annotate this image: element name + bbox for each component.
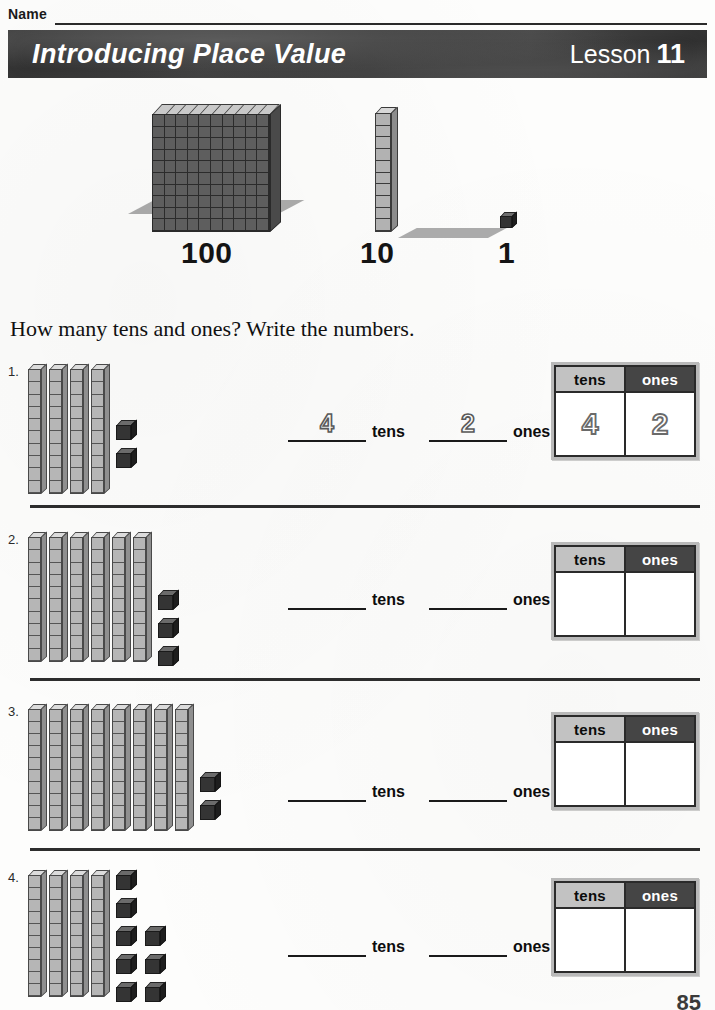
lesson-title-bar: Introducing Place Value Lesson11: [8, 30, 707, 78]
ones-cube-icon: [158, 590, 173, 605]
tens-rod-front-face: [70, 875, 83, 997]
tens-rod-icon: [49, 704, 62, 832]
tens-rod-side-face: [83, 870, 89, 997]
tens-rod-icon: [49, 532, 62, 663]
ones-cube-icon: [145, 954, 160, 969]
ones-cube-front-face: [116, 987, 131, 1002]
tens-rod-side-face: [41, 870, 47, 997]
ones-cube-side-face: [131, 420, 137, 440]
ones-answer-blank[interactable]: [429, 770, 507, 802]
ones-cube-column: [116, 870, 131, 1010]
ones-answer-value: 2: [429, 409, 507, 438]
place-value-table-header: tensones: [556, 547, 694, 573]
ones-cube-front-face: [116, 425, 131, 440]
hundreds-flat-side-face: [270, 104, 281, 232]
ones-cube-icon: [116, 982, 131, 997]
tens-rod-icon: [49, 870, 62, 998]
tens-rod-front-face: [112, 537, 125, 662]
tens-rod-side-face: [125, 532, 131, 662]
tens-rod-front-face: [91, 709, 104, 831]
ones-answer-word: ones: [513, 423, 550, 442]
ones-answer-blank[interactable]: [429, 925, 507, 957]
tens-rod-side-face: [104, 532, 110, 662]
place-value-table: tensones: [551, 878, 699, 976]
ones-cube-icon: [116, 898, 131, 913]
lesson-word: Lesson: [570, 40, 651, 68]
ones-answer-blank[interactable]: 2: [429, 410, 507, 442]
ones-cube-side-face: [131, 870, 137, 890]
tens-column-header: tens: [556, 717, 626, 741]
ones-cube-front-face: [145, 959, 160, 974]
tens-rod-side-face: [41, 532, 47, 662]
tens-rod-front-face: [49, 369, 62, 494]
ones-cube-front-face: [200, 777, 215, 792]
tens-answer-cell[interactable]: 4: [556, 393, 626, 455]
tens-rod-front-face: [28, 369, 41, 494]
tens-rod-icon: [91, 364, 104, 495]
tens-rod-front-face: [49, 537, 62, 662]
tens-answer-blank[interactable]: [288, 578, 366, 610]
ones-cube-icon: [145, 926, 160, 941]
tens-rod-side-face: [41, 364, 47, 494]
ones-cube-front-face: [116, 931, 131, 946]
ones-answer-cell[interactable]: [626, 743, 694, 805]
ones-cube-side-face: [512, 211, 517, 228]
tens-rod-icon: [154, 704, 167, 832]
name-write-line[interactable]: [55, 23, 707, 25]
tens-rod-side-face: [188, 704, 194, 831]
tens-answer-cell[interactable]: [556, 573, 626, 635]
tens-rod-group: [28, 870, 112, 998]
tens-rod-shadow: [398, 228, 507, 238]
tens-rod-icon: [70, 532, 83, 663]
ones-answer-cell[interactable]: [626, 573, 694, 635]
tens-rod-side-face: [83, 364, 89, 494]
ones-answer-cell[interactable]: [626, 909, 694, 971]
tens-answer-word: tens: [372, 938, 405, 957]
ones-answer-cell[interactable]: 2: [626, 393, 694, 455]
tens-answer-cell[interactable]: [556, 743, 626, 805]
ones-label: 1: [498, 236, 515, 270]
tens-answer-cell[interactable]: [556, 909, 626, 971]
tens-rod-icon: [375, 107, 391, 232]
ones-cube-side-face: [215, 800, 221, 820]
tens-rod-icon: [28, 532, 41, 663]
tens-answer-blank[interactable]: [288, 770, 366, 802]
tens-rod-group: [28, 364, 112, 495]
ones-cube-icon: [500, 212, 512, 224]
ones-cube-side-face: [160, 954, 166, 974]
ones-cube-side-face: [215, 772, 221, 792]
ones-cube-icon: [158, 618, 173, 633]
tens-rod-side-face: [104, 870, 110, 997]
tens-answer-blank[interactable]: 4: [288, 410, 366, 442]
ones-column-header: ones: [626, 883, 694, 907]
tens-answer-word: tens: [372, 783, 405, 802]
tens-rod-icon: [70, 704, 83, 832]
ones-column-header: ones: [626, 717, 694, 741]
tens-rod-icon: [28, 704, 41, 832]
tens-rod-front-face: [112, 709, 125, 831]
ones-cube-column: [158, 590, 173, 674]
ones-cube-side-face: [173, 646, 179, 666]
answer-line-group: tensones: [288, 578, 552, 610]
tens-rod-icon: [91, 870, 104, 998]
lesson-number: 11: [656, 39, 685, 69]
tens-answer-word: tens: [372, 591, 405, 610]
ones-cube-icon: [116, 448, 131, 463]
tens-rod-side-face: [62, 532, 68, 662]
problem-number: 3.: [8, 704, 19, 719]
tens-answer-value: 4: [288, 409, 366, 438]
tens-rod-icon: [91, 532, 104, 663]
page-number: 85: [677, 990, 701, 1010]
place-value-table-header: tensones: [556, 883, 694, 909]
tens-rod-icon: [133, 704, 146, 832]
tens-rod-front-face: [70, 537, 83, 662]
tens-column-header: tens: [556, 547, 626, 571]
ones-cube-front-face: [116, 959, 131, 974]
ones-answer-blank[interactable]: [429, 578, 507, 610]
tens-answer-blank[interactable]: [288, 925, 366, 957]
ones-cube-icon: [200, 772, 215, 787]
ones-cube-front-face: [116, 875, 131, 890]
name-row: Name: [8, 6, 707, 28]
place-value-table: tensones: [551, 712, 699, 810]
tens-label: 10: [360, 236, 394, 270]
